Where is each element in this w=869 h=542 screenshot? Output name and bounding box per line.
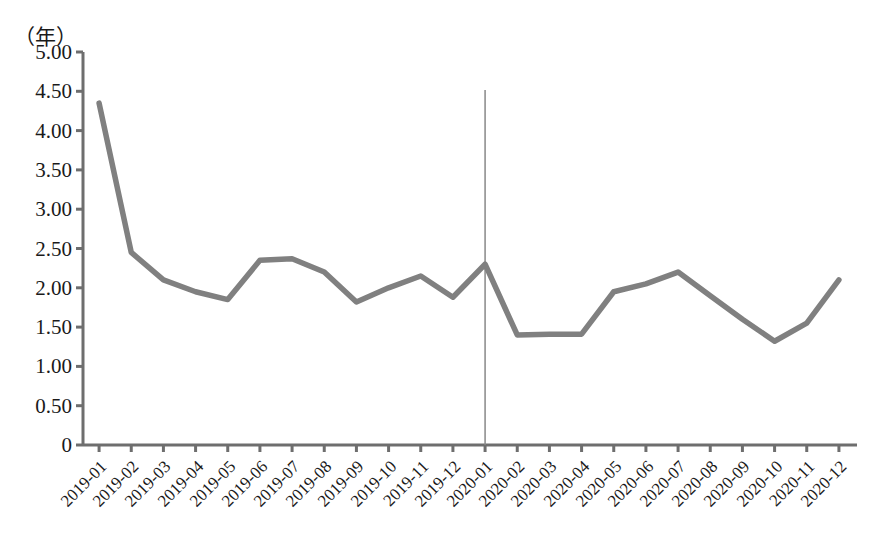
chart-page: （年） 5.004.504.003.503.002.502.001.501.00… [0,0,869,542]
x-axis-tick-labels: 2019-012019-022019-032019-042019-052019-… [0,0,869,542]
